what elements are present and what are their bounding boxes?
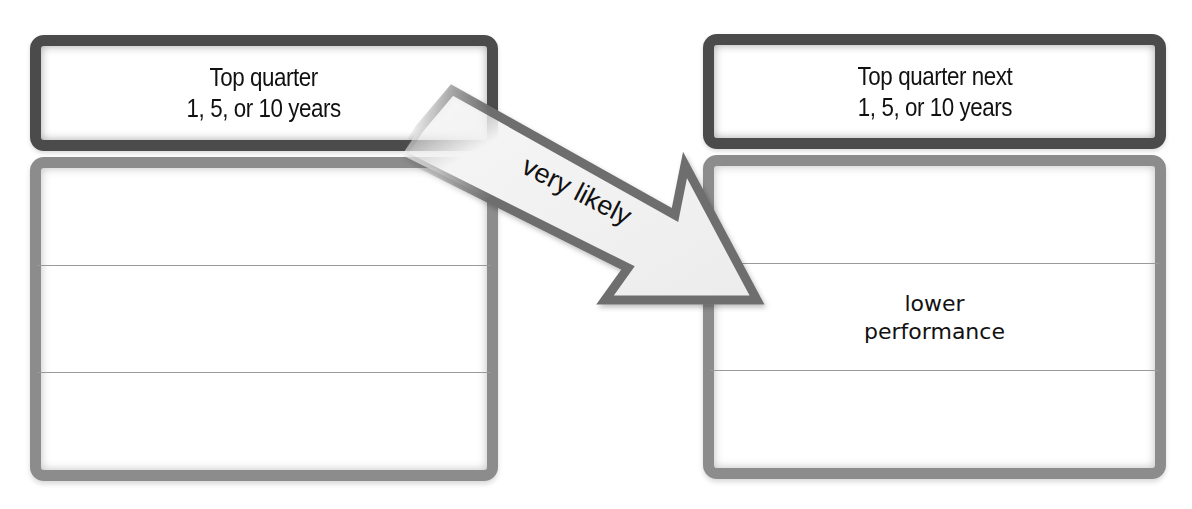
left-row-top [41, 168, 487, 266]
right-header-text: Top quarter next 1, 5, or 10 years [857, 61, 1012, 123]
right-column-header: Top quarter next 1, 5, or 10 years [703, 34, 1166, 149]
left-column-body [30, 157, 498, 481]
left-column-header: Top quarter 1, 5, or 10 years [30, 35, 498, 151]
arrow-label: very likely [517, 151, 637, 232]
left-header-text: Top quarter 1, 5, or 10 years [187, 62, 341, 124]
left-row-middle [41, 266, 487, 373]
right-row-middle: lower performance [714, 264, 1155, 371]
left-header-line2: 1, 5, or 10 years [187, 93, 341, 124]
left-row-bottom [41, 373, 487, 470]
lower-performance-line2: performance [864, 318, 1005, 346]
right-row-bottom [714, 371, 1155, 468]
right-row-middle-text: lower performance [864, 290, 1005, 346]
right-header-line2: 1, 5, or 10 years [857, 92, 1012, 123]
right-header-line1: Top quarter next [857, 61, 1012, 92]
left-header-line1: Top quarter [187, 62, 341, 93]
lower-performance-line1: lower [864, 290, 1005, 318]
right-row-top [714, 166, 1155, 264]
right-column-body: lower performance [703, 155, 1166, 479]
